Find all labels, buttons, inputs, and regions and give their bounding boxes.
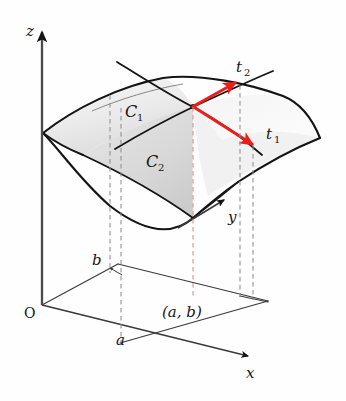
labels: z y x O a b (a, b) C 1 C 2 t 2 t 1 [24, 22, 280, 382]
tangent-label-t2: t [236, 58, 243, 76]
axis-label-z: z [25, 22, 34, 40]
surface-tangent-diagram: z y x O a b (a, b) C 1 C 2 t 2 t 1 [0, 0, 346, 401]
tangent-label-t2-subscript: 2 [244, 67, 250, 78]
tangent-label-t1: t [266, 125, 273, 143]
curve-label-c1: C [125, 102, 137, 121]
base-edge-b-extend [240, 296, 268, 302]
label-a: a [116, 331, 125, 349]
label-ab: (a, b) [162, 303, 202, 321]
b-tick-arrow [110, 268, 122, 275]
base-edge-origin-to-b [42, 264, 118, 305]
label-b: b [92, 251, 102, 269]
axis-label-y: y [227, 208, 237, 226]
base-plane [42, 264, 268, 343]
figure-root: z y x O a b (a, b) C 1 C 2 t 2 t 1 [0, 0, 346, 401]
axis-label-x: x [246, 364, 255, 382]
curve-label-c2: C [146, 152, 158, 171]
x-axis [42, 305, 248, 356]
tangent-label-t1-subscript: 1 [274, 134, 280, 145]
surface-patch [43, 77, 320, 229]
axes [42, 32, 248, 356]
origin-label: O [24, 305, 35, 321]
curve-label-c1-subscript: 1 [137, 112, 143, 123]
curve-label-c2-subscript: 2 [158, 162, 164, 173]
